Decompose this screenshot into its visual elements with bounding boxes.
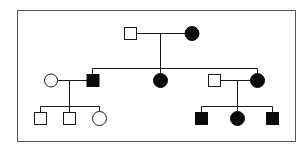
pedigree-diagram — [0, 0, 307, 148]
male-affected-symbol — [267, 113, 279, 125]
female-unaffected-symbol — [45, 74, 58, 87]
female-affected-symbol — [231, 112, 245, 126]
male-affected-symbol — [196, 113, 208, 125]
female-affected-symbol — [251, 74, 265, 88]
male-affected-symbol — [87, 75, 99, 87]
male-unaffected-symbol — [64, 113, 76, 125]
female-affected-symbol — [154, 74, 168, 88]
female-affected-symbol — [185, 27, 199, 41]
male-unaffected-symbol — [209, 75, 221, 87]
male-unaffected-symbol — [125, 28, 137, 40]
male-unaffected-symbol — [35, 113, 47, 125]
female-unaffected-symbol — [93, 112, 107, 126]
